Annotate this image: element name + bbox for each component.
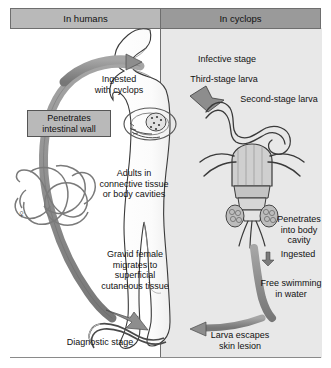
label-penetrates-intestinal-wall-line2: intestinal wall — [42, 124, 96, 134]
label-penetrates-body-line2: into body — [281, 225, 318, 235]
label-penetrates-body-line3: cavity — [287, 235, 310, 245]
panel-header-in-cyclops-label: In cyclops — [219, 13, 261, 24]
label-larva-escapes-line1: Larva escapes — [211, 330, 270, 340]
label-gravid-female: Gravid female migrates to superficial cu… — [86, 249, 184, 291]
label-gravid-line1: Gravid female — [107, 249, 163, 259]
label-second-stage-larva: Second-stage larva — [233, 94, 325, 105]
label-free-swimming-line1: Free swimming — [260, 278, 321, 288]
label-penetrates-intestinal-wall: Penetrates intestinal wall — [27, 110, 111, 137]
label-ingested: Ingested — [272, 249, 324, 260]
figure-bottom-rule — [10, 357, 321, 358]
label-penetrates-body-cavity: Penetrates into body cavity — [270, 214, 328, 246]
label-ingested-with-cyclops: Ingested with cyclops — [88, 74, 150, 95]
label-infective-stage: Infective stage — [182, 54, 272, 65]
label-adults-connective-tissue: Adults in connective tissue or body cavi… — [84, 168, 184, 200]
cycle-arrow-head-foot — [106, 310, 148, 330]
panel-header-in-cyclops: In cyclops — [160, 8, 321, 29]
label-adults-line3: or body cavities — [103, 189, 166, 199]
label-ingested-with-cyclops-line1: Ingested — [102, 74, 137, 84]
label-ingested-with-cyclops-line2: with cyclops — [95, 85, 144, 95]
label-larva-escapes-skin-lesion: Larva escapes skin lesion — [197, 330, 283, 351]
label-penetrates-intestinal-wall-line1: Penetrates — [47, 113, 91, 123]
label-larva-escapes-line2: skin lesion — [219, 341, 261, 351]
label-free-swimming: Free swimming in water — [258, 278, 324, 299]
label-gravid-line4: cutaneous tissue — [101, 281, 169, 291]
label-penetrates-body-line1: Penetrates — [277, 214, 321, 224]
label-adults-line2: connective tissue — [99, 179, 168, 189]
label-diagnostic-stage: Diagnostic stage — [57, 337, 143, 348]
label-free-swimming-line2: in water — [275, 289, 307, 299]
female-symbol-icon: ♀ — [17, 207, 26, 221]
label-gravid-line3: superficial — [115, 270, 156, 280]
life-cycle-figure: In humans In cyclops — [0, 0, 331, 368]
label-gravid-line2: migrates to — [113, 260, 158, 270]
panel-header-in-humans: In humans — [10, 8, 161, 29]
label-third-stage-larva: Third-stage larva — [180, 74, 268, 85]
panel-header-in-humans-label: In humans — [63, 13, 107, 24]
label-adults-line1: Adults in — [117, 168, 152, 178]
